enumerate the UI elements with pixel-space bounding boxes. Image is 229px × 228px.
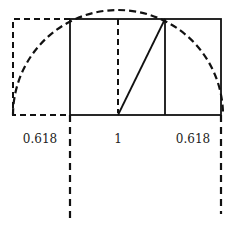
label-right-ratio: 0.618 xyxy=(176,132,210,146)
golden-ratio-diagram: 0.618 1 0.618 xyxy=(0,0,229,228)
main-rectangle xyxy=(70,19,221,115)
diagonal-radius-line xyxy=(118,19,165,115)
label-left-ratio: 0.618 xyxy=(23,132,57,146)
left-dashed-rectangle xyxy=(13,19,70,115)
label-center-unit: 1 xyxy=(114,132,122,146)
